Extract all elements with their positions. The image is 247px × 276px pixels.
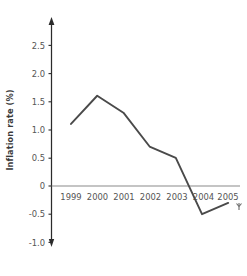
x-tick-label-2005: 2005 — [217, 192, 238, 202]
x-axis-arrow-icon — [237, 203, 242, 210]
y-tick-label-0: 0 — [40, 181, 45, 191]
y-axis-arrow-icon — [49, 17, 55, 25]
x-tick-label-2003: 2003 — [166, 192, 187, 202]
x-tick-label-1999: 1999 — [60, 192, 81, 202]
y-axis-label: Inflation rate (%) — [5, 89, 15, 170]
y-axis-end-cap-icon — [49, 239, 54, 247]
y-tick-label-1-0: 1.0 — [32, 125, 45, 135]
y-tick-label-neg-0-5: -0.5 — [29, 209, 45, 219]
line-chart: Inflation rate (%) 2.5 2.0 1.5 1.0 0.5 0… — [0, 0, 247, 276]
chart-container: Inflation rate (%) 2.5 2.0 1.5 1.0 0.5 0… — [0, 0, 247, 276]
y-tick-label-0-5: 0.5 — [32, 153, 45, 163]
y-tick-label-1-5: 1.5 — [32, 97, 45, 107]
x-tick-label-2000: 2000 — [87, 192, 108, 202]
x-tick-label-2002: 2002 — [140, 192, 161, 202]
y-tick-label-2-0: 2.0 — [32, 69, 45, 79]
y-tick-label-neg-1-0: -1.0 — [29, 238, 45, 248]
y-tick-label-2-5: 2.5 — [32, 41, 45, 51]
x-tick-label-2001: 2001 — [113, 192, 134, 202]
